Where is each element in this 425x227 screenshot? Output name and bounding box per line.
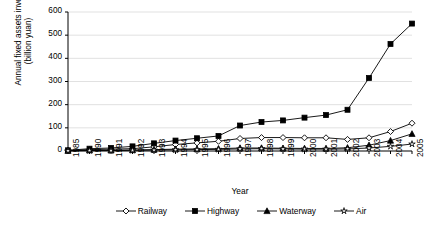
air-marker-icon [333,205,355,217]
railway-marker-icon [115,205,137,217]
highway-marker-icon [184,205,206,217]
waterway-marker-icon [256,205,278,217]
legend-label: Railway [138,206,167,216]
legend-item-air[interactable]: Air [333,205,366,217]
legend-label: Highway [207,206,239,216]
legend-label: Waterway [279,206,316,216]
x-axis-title: Year [210,186,270,196]
chart-legend: RailwayHighwayWaterwayAir [68,203,413,219]
legend-label: Air [356,206,366,216]
series-highway [66,21,415,153]
legend-item-waterway[interactable]: Waterway [256,205,316,217]
legend-item-railway[interactable]: Railway [115,205,167,217]
legend-item-highway[interactable]: Highway [184,205,239,217]
chart-container: Annual fixed assets investment (billion … [0,0,425,227]
